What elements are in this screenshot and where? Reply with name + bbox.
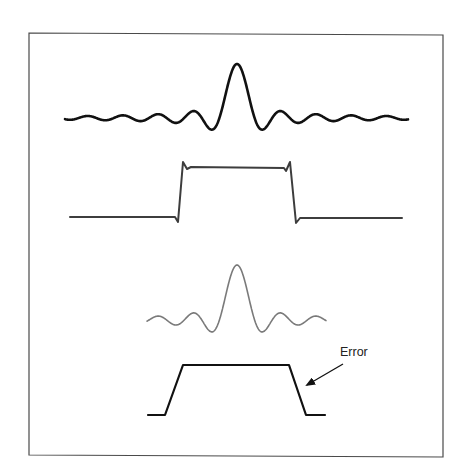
diagram-canvas: Error — [0, 0, 467, 476]
sinc-spectrum-curve — [65, 64, 408, 130]
error-arrow-icon — [307, 364, 343, 385]
truncated-sinc-curve — [147, 265, 326, 332]
trapezoid-result-curve — [148, 365, 325, 415]
rect-with-ringing-curve — [70, 162, 402, 223]
diagram-frame — [29, 33, 443, 457]
error-label: Error — [340, 345, 368, 359]
